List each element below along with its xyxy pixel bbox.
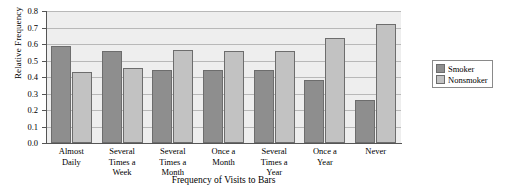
bar-smoker-4 xyxy=(254,70,274,143)
x-axis-label-4: Several Times a Year xyxy=(249,146,300,178)
bar-nonsmoker-3 xyxy=(224,51,244,143)
x-axis-label-0: Almost Daily xyxy=(46,146,97,167)
y-axis-tick-label: 0.0 xyxy=(14,138,42,148)
x-axis-label-2: Several Times a Month xyxy=(147,146,198,178)
bar-nonsmoker-4 xyxy=(275,51,295,143)
x-axis-label-6: Never xyxy=(350,146,401,157)
y-axis-tick-label: 0.6 xyxy=(14,39,42,49)
y-axis-tick-label: 0.5 xyxy=(14,56,42,66)
legend-item-nonsmoker: Nonsmoker xyxy=(436,74,488,85)
bar-nonsmoker-6 xyxy=(376,24,396,143)
bar-smoker-1 xyxy=(102,51,122,143)
legend-label: Nonsmoker xyxy=(448,75,488,85)
bars-layer xyxy=(46,11,401,143)
bar-smoker-6 xyxy=(355,100,375,143)
x-axis-label-1: Several Times a Week xyxy=(97,146,148,178)
y-axis-tick-label: 0.3 xyxy=(14,89,42,99)
legend-swatch-icon xyxy=(436,75,445,84)
x-axis-title: Frequency of Visits to Bars xyxy=(46,175,401,185)
bar-smoker-3 xyxy=(203,70,223,143)
bar-nonsmoker-2 xyxy=(173,50,193,143)
chart-legend: SmokerNonsmoker xyxy=(432,60,493,88)
bar-smoker-5 xyxy=(304,80,324,143)
x-axis-label-5: Once a Year xyxy=(300,146,351,167)
bar-chart: Relative Frequency 0.00.10.20.30.40.50.6… xyxy=(0,0,508,192)
legend-label: Smoker xyxy=(448,64,474,74)
bar-nonsmoker-5 xyxy=(325,38,345,143)
bar-nonsmoker-1 xyxy=(123,68,143,143)
y-axis-tick-label: 0.8 xyxy=(14,6,42,16)
legend-item-smoker: Smoker xyxy=(436,63,488,74)
y-axis-tick-mark xyxy=(42,143,46,144)
bar-nonsmoker-0 xyxy=(72,72,92,143)
bar-smoker-0 xyxy=(51,46,71,143)
y-axis-tick-label: 0.1 xyxy=(14,122,42,132)
y-axis-tick-label: 0.4 xyxy=(14,72,42,82)
x-axis-line xyxy=(46,143,402,144)
x-axis-label-3: Once a Month xyxy=(198,146,249,167)
y-axis-tick-label: 0.2 xyxy=(14,105,42,115)
bar-smoker-2 xyxy=(152,70,172,143)
legend-swatch-icon xyxy=(436,64,445,73)
y-axis-tick-label: 0.7 xyxy=(14,23,42,33)
